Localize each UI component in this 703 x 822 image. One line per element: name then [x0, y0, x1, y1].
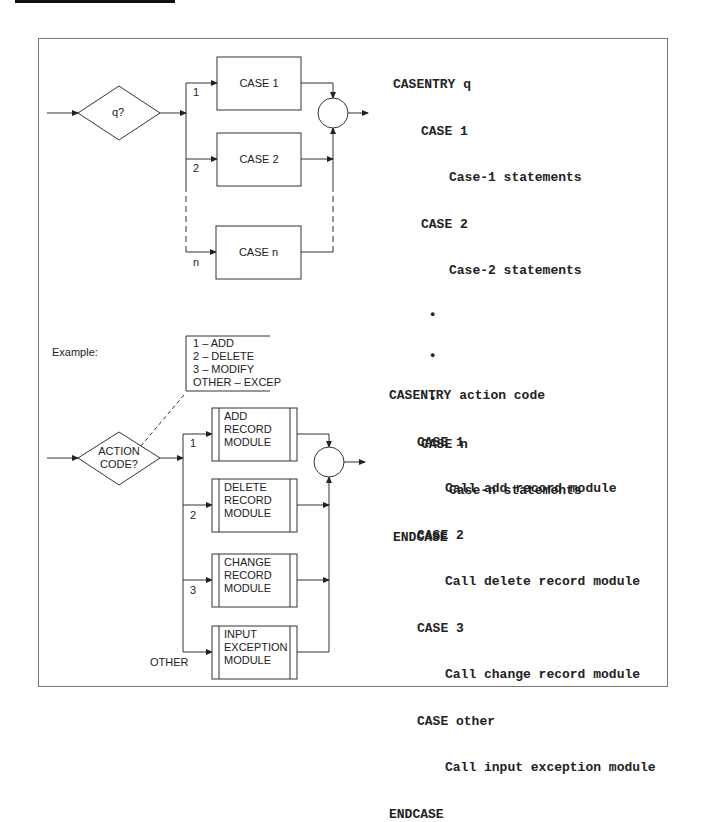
module-label-line: INPUT: [224, 628, 288, 641]
module-label-line: MODULE: [224, 654, 288, 667]
annotation-line: 3 – MODIFY: [193, 363, 281, 376]
delete-record-module-label: DELETE RECORD MODULE: [224, 481, 272, 520]
code-line: CASENTRY action code: [389, 388, 656, 404]
branch-label-1: 1: [193, 86, 199, 98]
module-label-line: MODULE: [224, 507, 272, 520]
code-line: CASE 2: [393, 217, 582, 233]
code-line: CASE 1: [389, 435, 656, 451]
module-label-line: DELETE: [224, 481, 272, 494]
module-label-line: EXCEPTION: [224, 641, 288, 654]
annotation-text: 1 – ADD 2 – DELETE 3 – MODIFY OTHER – EX…: [193, 337, 281, 389]
code-line: Call change record module: [389, 667, 656, 683]
code-line: CASENTRY q: [393, 77, 582, 93]
module-label-line: MODULE: [224, 582, 272, 595]
decision-label-action-code: ACTION CODE?: [78, 445, 160, 471]
branch-label-2: 2: [190, 509, 196, 521]
code-line: Call delete record module: [389, 574, 656, 590]
add-record-module-label: ADD RECORD MODULE: [224, 410, 272, 449]
module-label-line: RECORD: [224, 494, 272, 507]
code-line: CASE 3: [389, 621, 656, 637]
pseudocode-bottom: CASENTRY action code CASE 1 Call add rec…: [389, 357, 656, 822]
case-n-label: CASE n: [216, 246, 301, 258]
connector-circle-top: [318, 98, 348, 128]
code-line: Call input exception module: [389, 760, 656, 776]
decision-label-line: ACTION: [78, 445, 160, 458]
code-line: Call add record module: [389, 481, 656, 497]
case-2-label: CASE 2: [217, 153, 301, 165]
branch-label-n: n: [193, 256, 199, 268]
case-1-label: CASE 1: [217, 77, 301, 89]
change-record-module-label: CHANGE RECORD MODULE: [224, 556, 272, 595]
module-label-line: ADD: [224, 410, 272, 423]
branch-label-other: OTHER: [150, 656, 189, 668]
example-label: Example:: [52, 346, 98, 358]
annotation-line: 1 – ADD: [193, 337, 281, 350]
annotation-line: OTHER – EXCEP: [193, 376, 281, 389]
module-label-line: RECORD: [224, 423, 272, 436]
branch-label-1: 1: [190, 437, 196, 449]
code-line: Case-1 statements: [393, 170, 582, 186]
input-exception-module-label: INPUT EXCEPTION MODULE: [224, 628, 288, 667]
module-label-line: RECORD: [224, 569, 272, 582]
connector-circle-bottom: [314, 447, 344, 477]
module-label-line: MODULE: [224, 436, 272, 449]
module-label-line: CHANGE: [224, 556, 272, 569]
code-line: ENDCASE: [389, 807, 656, 822]
decision-label-q: q?: [112, 106, 124, 118]
annotation-line: 2 – DELETE: [193, 350, 281, 363]
code-line: Case-2 statements: [393, 263, 582, 279]
decision-label-line: CODE?: [78, 458, 160, 471]
code-line: CASE 1: [393, 124, 582, 140]
code-line: CASE 2: [389, 528, 656, 544]
branch-label-2: 2: [193, 162, 199, 174]
code-line: CASE other: [389, 714, 656, 730]
branch-label-3: 3: [190, 584, 196, 596]
code-ellipsis-dot: •: [393, 310, 582, 320]
